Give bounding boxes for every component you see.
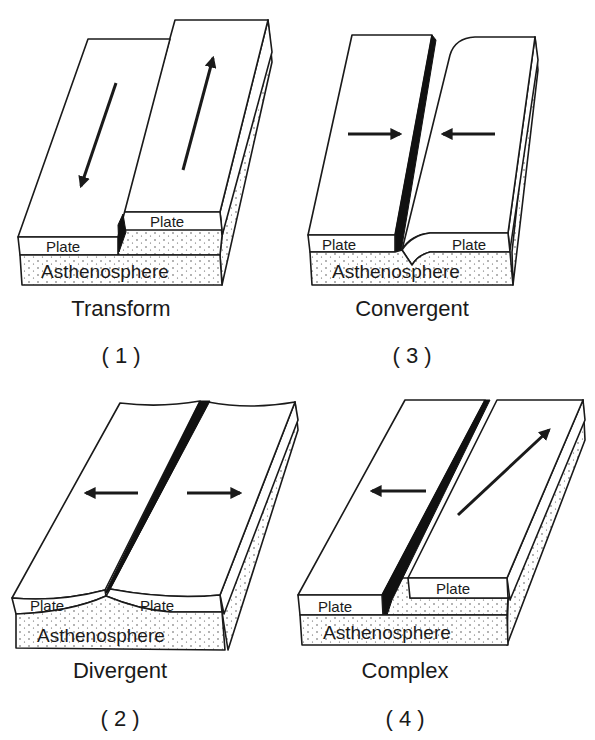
panel-complex: Plate Plate Asthenosphere Complex ( 4 )	[298, 400, 585, 731]
panel-number: ( 3 )	[392, 343, 431, 368]
caption-divergent: Divergent	[73, 658, 167, 683]
asthenosphere-label: Asthenosphere	[37, 625, 165, 646]
panel-number: ( 2 )	[100, 706, 139, 731]
plate-label: Plate	[322, 236, 356, 253]
plate-label: Plate	[318, 598, 352, 615]
caption-complex: Complex	[362, 658, 449, 683]
plate-label: Plate	[140, 597, 174, 614]
panel-transform: Plate Plate Asthenosphere Transform ( 1 …	[18, 20, 272, 368]
plate-label: Plate	[150, 213, 184, 230]
plate-label: Plate	[436, 580, 470, 597]
plate-label: Plate	[30, 597, 64, 614]
asthenosphere-label: Asthenosphere	[41, 261, 169, 282]
plate-boundaries-diagram: Plate Plate Asthenosphere Transform ( 1 …	[0, 0, 595, 740]
asthenosphere-label: Asthenosphere	[332, 261, 460, 282]
panel-convergent: Plate Plate Asthenosphere Convergent ( 3…	[308, 35, 538, 368]
caption-convergent: Convergent	[355, 296, 469, 321]
asthenosphere-label: Asthenosphere	[323, 622, 451, 643]
plate-label: Plate	[452, 236, 486, 253]
panel-number: ( 1 )	[101, 343, 140, 368]
caption-transform: Transform	[71, 296, 170, 321]
plate-label: Plate	[46, 238, 80, 255]
panel-number: ( 4 )	[385, 706, 424, 731]
panel-divergent: Plate Plate Asthenosphere Divergent ( 2 …	[12, 401, 298, 731]
